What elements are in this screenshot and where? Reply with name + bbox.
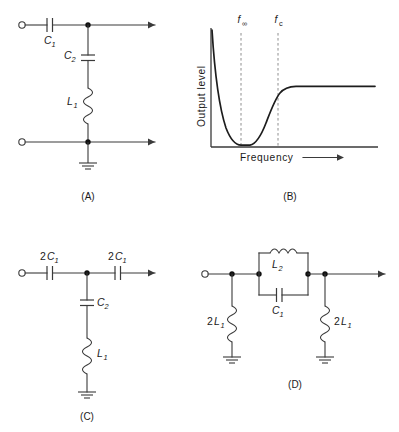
- ground-symbol-a: [79, 142, 97, 169]
- label-l1-a-sub: 1: [74, 101, 78, 110]
- output-arrow-a-top: [148, 22, 155, 29]
- input-terminal-c[interactable]: [19, 270, 25, 276]
- chart-x-axis-arrow-head: [337, 154, 344, 160]
- label-l2-d: L: [272, 258, 278, 270]
- output-arrow-d: [378, 271, 385, 278]
- label-2c1-left-sub: 1: [55, 256, 59, 265]
- output-arrow-c: [148, 270, 155, 277]
- panel-b-chart: Output level Frequency f ∞ f c (B): [196, 14, 378, 202]
- label-2l1-left-coef: 2: [207, 315, 213, 327]
- label-2c1-left-coef: 2: [40, 250, 46, 262]
- inductor-2l1-left-d: [228, 306, 237, 342]
- label-2c1-right-sub: 1: [123, 256, 127, 265]
- label-c2-c-sub: 2: [104, 302, 109, 311]
- chart-response-curve: [212, 30, 375, 145]
- label-2l1-right-sub: 1: [348, 321, 352, 330]
- label-l2-d-sub: 2: [278, 264, 283, 273]
- inductor-2l1-right-d: [321, 306, 330, 342]
- panel-a-schematic: C 1 C 2 L 1 (A): [19, 18, 155, 202]
- ground-symbol-d-left: [223, 357, 241, 363]
- panel-caption-d: (D): [288, 379, 302, 390]
- label-2l1-right: L: [341, 315, 347, 327]
- ground-symbol-c: [78, 392, 96, 398]
- panel-caption-a: (A): [81, 191, 94, 202]
- label-l1-c: L: [97, 347, 103, 359]
- input-terminal-a-bottom[interactable]: [19, 139, 25, 145]
- panel-caption-b: (B): [283, 191, 296, 202]
- inductor-l2-d: [270, 249, 297, 253]
- chart-y-axis-label: Output level: [196, 65, 207, 127]
- chart-label-f-cutoff-sub: c: [279, 19, 283, 28]
- ground-symbol-d-right: [316, 357, 334, 363]
- label-c1-a-sub: 1: [52, 40, 56, 49]
- panel-d-schematic: L 2 C 1 2 L 1: [202, 249, 385, 390]
- inductor-l1-c: [83, 338, 92, 374]
- label-c1-d-sub: 1: [280, 310, 284, 319]
- label-2l1-left: L: [214, 315, 220, 327]
- input-terminal-d[interactable]: [202, 271, 208, 277]
- label-2l1-left-sub: 1: [221, 321, 225, 330]
- panel-caption-c: (C): [80, 411, 94, 422]
- label-2c1-right-coef: 2: [108, 250, 114, 262]
- label-l1-a: L: [67, 95, 73, 107]
- label-c2-a-sub: 2: [71, 55, 76, 64]
- inductor-l1-a: [84, 88, 93, 124]
- input-terminal-a[interactable]: [19, 22, 25, 28]
- chart-label-f-infinity-sub: ∞: [242, 19, 247, 28]
- chart-label-f-infinity: f: [238, 14, 242, 25]
- label-l1-c-sub: 1: [104, 353, 108, 362]
- output-arrow-a-bottom: [148, 139, 155, 146]
- chart-label-f-cutoff: f: [275, 14, 279, 25]
- panel-c-schematic: 2 C 1 2 C 1 C 2 L 1 (C): [19, 250, 155, 422]
- figure-svg: C 1 C 2 L 1 (A): [0, 0, 399, 432]
- figure-root: C 1 C 2 L 1 (A): [0, 0, 399, 432]
- chart-x-axis-label: Frequency: [240, 152, 294, 163]
- label-2l1-right-coef: 2: [334, 315, 340, 327]
